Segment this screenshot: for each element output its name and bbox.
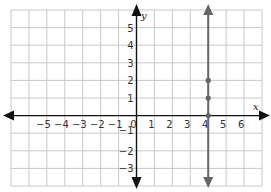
- data-point: [206, 78, 211, 83]
- series-line-x-equals-4: [203, 4, 213, 188]
- data-point: [206, 95, 211, 100]
- y-axis-label: y: [140, 10, 147, 21]
- x-tick-label: 6: [238, 119, 244, 130]
- x-tick-label: 3: [184, 119, 190, 130]
- axes: [3, 4, 270, 189]
- y-tick-label: 2: [127, 75, 133, 86]
- x-axis-right-arrow-icon: [259, 111, 270, 121]
- x-tick-label: −5: [36, 119, 51, 130]
- y-tick-label: 3: [127, 58, 133, 69]
- y-tick-label: 4: [127, 40, 133, 51]
- y-tick-label: −1: [119, 125, 134, 136]
- x-axis-label: x: [253, 101, 259, 112]
- y-tick-label: 5: [127, 23, 133, 34]
- data-point: [206, 113, 211, 118]
- y-tick-label: −2: [119, 146, 134, 157]
- x-tick-label: −3: [72, 119, 87, 130]
- x-tick-label: −2: [90, 119, 105, 130]
- y-axis-down-arrow-icon: [132, 177, 142, 189]
- x-tick-label: 1: [148, 119, 154, 130]
- y-tick-label: −3: [119, 163, 134, 174]
- x-tick-label: 5: [220, 119, 226, 130]
- coordinate-plane: −5−4−3−2−1012345654321−1−2−3 x y: [0, 0, 271, 192]
- x-tick-label: −4: [54, 119, 69, 130]
- x-axis-left-arrow-icon: [3, 111, 14, 121]
- x-tick-label: 2: [166, 119, 172, 130]
- y-tick-label: 1: [127, 93, 133, 104]
